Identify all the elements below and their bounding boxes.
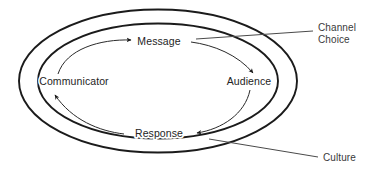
culture-label: Culture	[323, 152, 356, 163]
message-flow-arc-left	[58, 40, 131, 74]
channel-choice-label-line2: Choice	[318, 34, 350, 45]
response-flow-arc-right	[197, 90, 250, 133]
communicator-label: Communicator	[39, 75, 109, 87]
communication-model-diagram: Communicator Communicator Audience Audie…	[0, 0, 371, 179]
node-label-communicator: Communicator Communicator	[39, 75, 109, 87]
channel-choice-label-line1: Channel	[318, 22, 356, 33]
callout-culture: Culture	[323, 152, 356, 163]
channel-choice-leader-line	[196, 31, 313, 39]
node-label-response: Response Response	[135, 127, 183, 139]
message-label: Message	[137, 35, 180, 47]
culture-leader-line	[209, 139, 318, 157]
response-label: Response	[135, 127, 183, 139]
node-label-audience: Audience Audience	[227, 75, 272, 87]
callout-channel-choice: Channel Choice	[318, 22, 356, 45]
audience-label: Audience	[227, 75, 272, 87]
node-label-message: Message Message	[137, 35, 180, 47]
diagram-canvas: Communicator Communicator Audience Audie…	[0, 0, 371, 179]
message-flow-arc-right	[191, 42, 253, 73]
